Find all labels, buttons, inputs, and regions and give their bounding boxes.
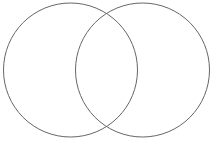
venn-diagram xyxy=(0,0,210,143)
right-circle xyxy=(76,3,210,137)
left-circle xyxy=(4,3,138,137)
